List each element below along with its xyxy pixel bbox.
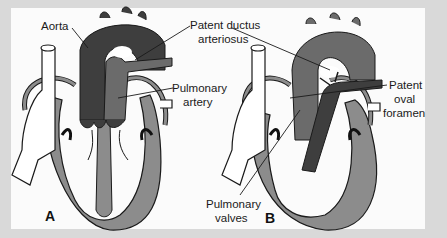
label-pulmonary-valves-2: valves xyxy=(215,212,248,225)
heart-a xyxy=(12,7,172,230)
panel-tag-b: B xyxy=(265,210,275,226)
label-pulmonary-valves-1: Pulmonary xyxy=(206,198,261,211)
label-aorta: Aorta xyxy=(41,20,69,33)
label-patent-ductus-1: Patent ductus xyxy=(190,19,260,32)
label-patent-oval-2: oval xyxy=(394,93,415,106)
label-pulmonary-artery-2: artery xyxy=(183,96,212,109)
label-patent-oval-1: Patent xyxy=(389,79,422,92)
label-patent-ductus-2: arteriosus xyxy=(198,33,249,46)
panel-tag-a: A xyxy=(45,208,55,224)
label-pulmonary-artery-1: Pulmonary xyxy=(172,82,227,95)
label-patent-oval-3: foramen xyxy=(383,107,425,120)
